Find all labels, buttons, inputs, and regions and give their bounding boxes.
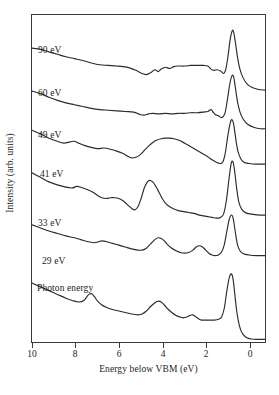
x-tick-8 [75, 343, 76, 348]
spectrum-curve-60-ev [32, 75, 265, 129]
plot-area [31, 14, 266, 343]
x-tick-6 [119, 343, 120, 348]
x-tick-2 [206, 343, 207, 348]
spectrum-curve-49-ev [32, 120, 265, 164]
photon-energy-annotation: Photon energy [37, 283, 93, 293]
y-axis-label: Intensity (arb. units) [0, 0, 20, 345]
curve-label-29ev: 29 eV [42, 256, 65, 266]
x-tick-10 [32, 343, 33, 348]
x-tick-label-10: 10 [22, 349, 42, 359]
x-tick-label-4: 4 [153, 349, 173, 359]
spectrum-curve-33-ev [32, 215, 265, 256]
x-tick-4 [163, 343, 164, 348]
x-tick-label-8: 8 [65, 349, 85, 359]
x-tick-0 [250, 343, 251, 348]
x-tick-label-2: 2 [196, 349, 216, 359]
photoemission-spectra-figure: Intensity (arb. units) 90 eV 60 eV 49 eV… [0, 0, 279, 395]
curve-label-41ev: 41 eV [40, 169, 63, 179]
curve-label-33ev: 33 eV [38, 218, 61, 228]
y-axis-label-text: Intensity (arb. units) [5, 133, 15, 213]
x-tick-label-0: 0 [240, 349, 260, 359]
curve-label-60ev: 60 eV [38, 88, 61, 98]
x-tick-label-6: 6 [109, 349, 129, 359]
curve-label-90ev: 90 eV [38, 45, 61, 55]
spectrum-curve-41-ev [32, 161, 265, 218]
curve-label-49ev: 49 eV [38, 130, 61, 140]
x-axis-label: Energy below VBM (eV) [31, 364, 266, 374]
